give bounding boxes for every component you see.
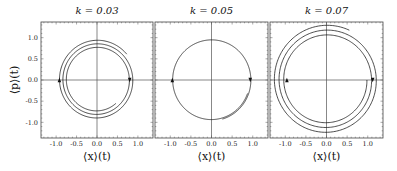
x-tick-label: 1.0 (363, 140, 373, 148)
panel-title: k = 0.07 (305, 5, 349, 16)
y-tick-label: 1.0 (28, 34, 38, 42)
y-axis-label: ⟨p⟩(t) (8, 66, 21, 95)
panel-1: -1.0-0.50.00.51.01.00.50.0-0.5-1.0k = 0.… (8, 5, 153, 163)
x-tick-label: 1.0 (133, 140, 143, 148)
trajectory-curve (60, 40, 133, 118)
x-axis-label: ⟨x⟩(t) (83, 150, 111, 163)
x-tick-label: 1.0 (248, 140, 258, 148)
trajectory-curve (274, 25, 376, 132)
phase-portrait-figure: -1.0-0.50.00.51.01.00.50.0-0.5-1.0k = 0.… (0, 0, 397, 171)
y-tick-label: -1.0 (25, 119, 38, 127)
y-tick-label: 0.0 (28, 76, 38, 84)
y-tick-label: -0.5 (25, 97, 38, 105)
x-tick-label: -0.5 (185, 140, 198, 148)
x-tick-label: -1.0 (279, 140, 292, 148)
panel-3: -1.0-0.50.00.51.0k = 0.07⟨x⟩(t) (270, 5, 383, 163)
x-axis-label: ⟨x⟩(t) (313, 150, 341, 163)
panel-2: -1.0-0.50.00.51.0k = 0.05⟨x⟩(t) (155, 5, 268, 163)
x-tick-label: -1.0 (50, 140, 63, 148)
x-tick-label: 0.0 (206, 140, 216, 148)
x-tick-label: 0.0 (321, 140, 331, 148)
x-tick-label: 0.5 (227, 140, 237, 148)
panel-title: k = 0.05 (190, 5, 233, 16)
x-tick-label: 0.0 (92, 140, 102, 148)
x-tick-label: -0.5 (70, 140, 83, 148)
x-axis-label: ⟨x⟩(t) (198, 150, 226, 163)
y-tick-label: 0.5 (28, 55, 38, 63)
x-tick-label: -1.0 (164, 140, 177, 148)
x-tick-label: 0.5 (112, 140, 122, 148)
x-tick-label: -0.5 (300, 140, 313, 148)
x-tick-label: 0.5 (342, 140, 352, 148)
panel-title: k = 0.03 (75, 5, 118, 16)
